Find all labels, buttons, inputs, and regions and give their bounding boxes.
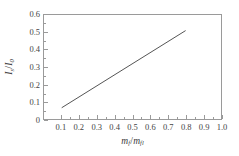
x-tick-major (61, 115, 62, 119)
x-tick-minor (141, 117, 142, 119)
data-line-svg (44, 15, 221, 119)
y-tick-label: 0.2 (29, 80, 40, 90)
x-tick-major (97, 115, 98, 119)
y-tick-minor (44, 23, 46, 24)
x-tick-label: 0.5 (127, 122, 138, 132)
y-axis-denominator-subscript: 0 (8, 59, 15, 62)
y-tick-major (44, 85, 48, 86)
x-tick-major (150, 115, 151, 119)
x-axis-denominator-subscript: fl (140, 139, 144, 146)
x-tick-minor (70, 117, 71, 119)
y-tick-minor (44, 94, 46, 95)
x-tick-label: 0.1 (56, 122, 67, 132)
x-tick-label: 0.4 (109, 122, 120, 132)
y-tick-label: 0.5 (29, 27, 40, 37)
x-tick-minor (88, 117, 89, 119)
x-tick-label: 0.8 (181, 122, 192, 132)
y-tick-major (44, 32, 48, 33)
y-tick-label: 0.6 (29, 9, 40, 19)
y-tick-major (44, 102, 48, 103)
x-tick-major (168, 115, 169, 119)
y-tick-major (44, 67, 48, 68)
x-tick-minor (124, 117, 125, 119)
x-tick-label: 1.0 (217, 122, 228, 132)
x-tick-minor (195, 117, 196, 119)
y-tick-label: 0.3 (29, 62, 40, 72)
y-axis-slash: / (4, 66, 14, 69)
y-tick-label: 0.4 (29, 44, 40, 54)
x-tick-major (79, 115, 80, 119)
y-tick-minor (44, 76, 46, 77)
y-axis-numerator-subscript: s (8, 69, 15, 72)
x-tick-minor (106, 117, 107, 119)
plot-area (43, 14, 222, 120)
y-tick-label: 0.1 (29, 97, 40, 107)
y-axis-denominator-variable: I (4, 63, 14, 66)
y-tick-major (44, 120, 48, 121)
y-tick-label: 0 (36, 115, 40, 125)
x-tick-label: 0.6 (145, 122, 156, 132)
y-tick-major (44, 14, 48, 15)
y-tick-minor (44, 58, 46, 59)
x-tick-label: 0.7 (163, 122, 174, 132)
data-series-line (62, 31, 186, 108)
figure-canvas: 0.10.20.30.40.50.60.70.80.91.0 00.10.20.… (0, 0, 239, 156)
x-tick-major (186, 115, 187, 119)
x-tick-major (133, 115, 134, 119)
x-tick-label: 0.2 (73, 122, 84, 132)
x-tick-major (222, 115, 223, 119)
y-axis-title: Is/I0 (4, 59, 14, 74)
y-tick-minor (44, 41, 46, 42)
y-tick-minor (44, 111, 46, 112)
x-tick-minor (159, 117, 160, 119)
x-tick-label: 0.9 (199, 122, 210, 132)
y-tick-major (44, 49, 48, 50)
x-tick-label: 0.3 (91, 122, 102, 132)
y-axis-numerator-variable: I (4, 71, 14, 74)
x-tick-major (115, 115, 116, 119)
x-axis-title: mf/mfl (43, 136, 222, 146)
x-tick-minor (177, 117, 178, 119)
x-tick-major (204, 115, 205, 119)
x-tick-minor (213, 117, 214, 119)
